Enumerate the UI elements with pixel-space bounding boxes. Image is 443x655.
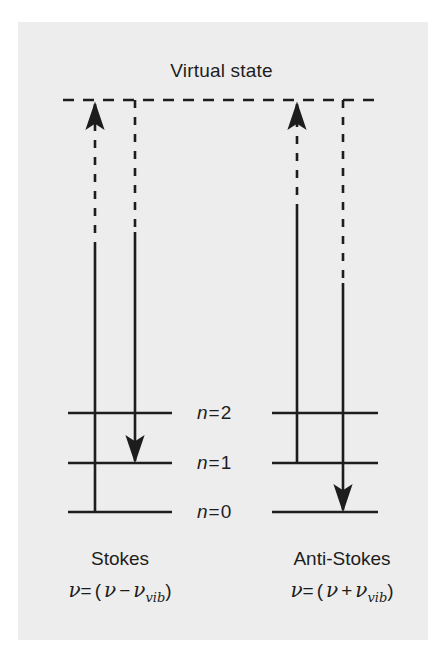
level-label-n1-value: 1	[221, 452, 232, 473]
antistokes-formula-eq: =	[303, 580, 314, 601]
stokes-formula-nu3: ν	[133, 578, 145, 602]
level-label-n0: n=0	[197, 501, 231, 523]
stokes-formula-nu: ν	[68, 578, 80, 602]
level-label-n2-var: n	[197, 402, 208, 423]
level-label-n1-eq: =	[209, 452, 220, 473]
level-label-n0-value: 0	[221, 501, 232, 522]
stokes-formula: ν=(ν−νvib)	[10, 578, 230, 605]
antistokes-formula-open: (	[317, 580, 323, 601]
antistokes-formula-operator: +	[341, 580, 352, 601]
antistokes-formula-nu: ν	[290, 578, 302, 602]
stokes-formula-operator: −	[119, 580, 130, 601]
stokes-formula-open: (	[95, 580, 101, 601]
stokes-title: Stokes	[10, 548, 230, 570]
level-label-n0-eq: =	[209, 501, 220, 522]
antistokes-formula-nu3: ν	[355, 578, 367, 602]
level-label-n2: n=2	[197, 402, 231, 424]
stokes-formula-subscript: vib	[145, 590, 165, 605]
level-label-n1-var: n	[197, 452, 208, 473]
raman-diagram-figure: Virtual state n=2 n=1 n=0 Stokes ν=(ν−νv…	[0, 0, 443, 655]
level-label-n2-eq: =	[209, 402, 220, 423]
level-label-n1: n=1	[197, 452, 231, 474]
antistokes-formula-subscript: vib	[367, 590, 387, 605]
virtual-state-label: Virtual state	[0, 60, 443, 82]
antistokes-formula-nu2: ν	[326, 578, 338, 602]
level-label-n0-var: n	[197, 501, 208, 522]
stokes-formula-eq: =	[81, 580, 92, 601]
level-label-n2-value: 2	[221, 402, 232, 423]
antistokes-title: Anti-Stokes	[232, 548, 443, 570]
antistokes-formula: ν=(ν+νvib)	[232, 578, 443, 605]
stokes-formula-close: )	[165, 580, 171, 601]
stokes-formula-nu2: ν	[104, 578, 116, 602]
antistokes-formula-close: )	[387, 580, 393, 601]
